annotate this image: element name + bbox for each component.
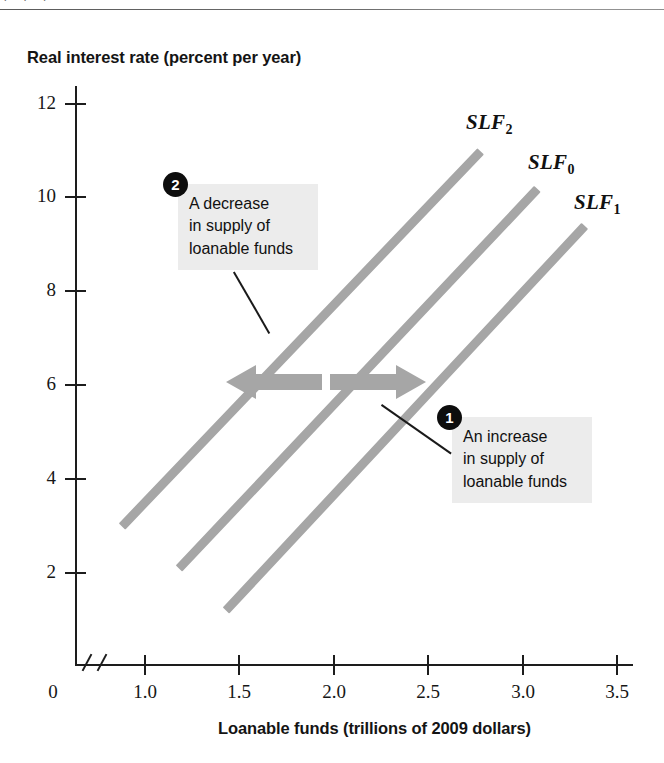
- increase-arrow-icon: [330, 363, 426, 401]
- y-tick-4: [65, 478, 86, 480]
- annotation-increase-badge: 1: [437, 405, 462, 430]
- x-tick-label-3-5: 3.5: [587, 681, 647, 703]
- curve-label-slf0-text: SLF: [528, 150, 567, 174]
- annotation-decrease-badge: 2: [163, 172, 188, 197]
- x-tick-3-0: [522, 655, 524, 675]
- curve-label-slf2-sub: 2: [505, 122, 512, 137]
- curve-label-slf0-sub: 0: [567, 162, 574, 177]
- y-tick-label-4: 4: [12, 467, 56, 489]
- x-axis-line: [75, 664, 633, 666]
- y-tick-2: [65, 572, 86, 574]
- y-axis-line: [75, 86, 77, 666]
- annotation-decrease-leader: [233, 271, 270, 333]
- y-tick-6: [65, 384, 86, 386]
- chart-plot-area: Real interest rate (percent per year) Lo…: [0, 0, 664, 763]
- annotation-increase-box: An increase in supply of loanable funds: [452, 417, 592, 503]
- x-tick-label-2-5: 2.5: [398, 681, 458, 703]
- x-tick-2-5: [427, 655, 429, 675]
- y-tick-label-2: 2: [12, 561, 56, 583]
- x-tick-label-1-5: 1.5: [209, 681, 269, 703]
- x-tick-3-5: [616, 655, 618, 675]
- y-tick-10: [65, 196, 86, 198]
- origin-label: 0: [33, 681, 73, 703]
- y-tick-label-10: 10: [12, 185, 56, 207]
- axis-break-icon: [82, 650, 118, 674]
- x-tick-1-5: [238, 655, 240, 675]
- y-axis-title: Real interest rate (percent per year): [27, 48, 301, 67]
- annotation-decrease-box: A decrease in supply of loanable funds: [178, 184, 318, 270]
- y-tick-8: [65, 290, 86, 292]
- x-tick-label-2-0: 2.0: [304, 681, 364, 703]
- y-tick-label-12: 12: [12, 92, 56, 114]
- curve-label-slf1-text: SLF: [574, 190, 613, 214]
- y-tick-label-8: 8: [12, 279, 56, 301]
- curve-label-slf0: SLF0: [528, 150, 574, 178]
- x-tick-label-3-0: 3.0: [493, 681, 553, 703]
- curve-label-slf1-sub: 1: [613, 202, 620, 217]
- x-tick-2-0: [333, 655, 335, 675]
- curve-label-slf2-text: SLF: [466, 110, 505, 134]
- decrease-arrow-icon: [226, 363, 322, 401]
- curve-label-slf2: SLF2: [466, 110, 512, 138]
- figure-root: ' ' ' Real interest rate (percent per ye…: [0, 0, 664, 763]
- y-tick-12: [65, 103, 86, 105]
- x-axis-title: Loanable funds (trillions of 2009 dollar…: [218, 719, 531, 738]
- x-tick-1-0: [144, 655, 146, 675]
- curve-label-slf1: SLF1: [574, 190, 620, 218]
- x-tick-label-1-0: 1.0: [115, 681, 175, 703]
- y-tick-label-6: 6: [12, 373, 56, 395]
